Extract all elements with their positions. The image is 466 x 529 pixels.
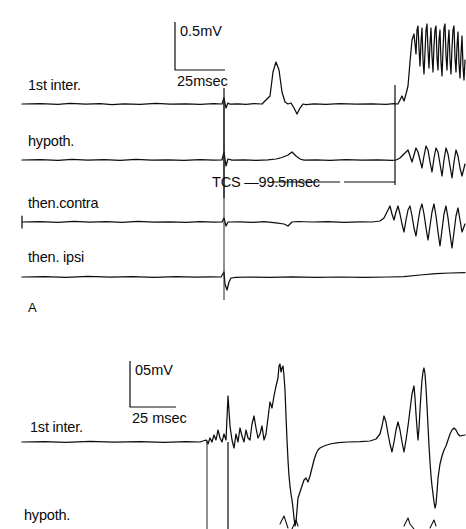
panel-a: 0.5mV 25msec 1st inter. hypoth. then.con… — [0, 0, 466, 330]
panel-a-traces — [0, 0, 466, 330]
trace-1st-inter-a — [22, 24, 465, 114]
channel-label-then-ipsi-a: then. ipsi — [28, 250, 84, 265]
trace-hypoth-b — [280, 516, 436, 529]
scale-bar-b-horizontal-label: 25 msec — [132, 411, 187, 426]
panel-letter-a: A — [28, 300, 37, 315]
scale-bar-a-horizontal-label: 25msec — [177, 74, 228, 89]
channel-label-then-contra-a: then.contra — [28, 196, 98, 211]
channel-label-hypoth-b: hypoth. — [24, 508, 70, 523]
scale-bar-b-vertical-label: 05mV — [135, 363, 173, 378]
channel-label-1st-inter-b: 1st inter. — [30, 420, 83, 435]
channel-label-1st-inter-a: 1st inter. — [28, 78, 81, 93]
tcs-latency-label: TCS —99.5msec — [212, 174, 320, 190]
channel-label-hypoth-a: hypoth. — [28, 134, 74, 149]
electrophysiology-figure: 0.5mV 25msec 1st inter. hypoth. then.con… — [0, 0, 466, 529]
panel-b: 05mV 25 msec 1st inter. hypoth. — [0, 330, 466, 529]
trace-1st-inter-b — [22, 364, 465, 526]
scale-bar-a-vertical-label: 0.5mV — [180, 24, 222, 39]
